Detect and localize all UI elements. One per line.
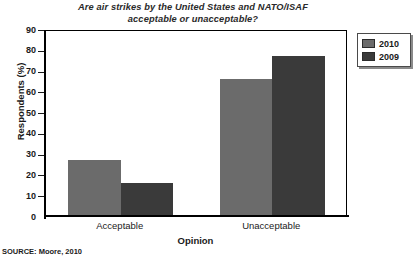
legend-swatch-2010 bbox=[362, 39, 375, 48]
bar-2009-unacceptable bbox=[272, 56, 324, 216]
bar-2010-unacceptable bbox=[220, 79, 272, 216]
chart-title-line-1: Are air strikes by the United States and… bbox=[28, 2, 358, 14]
y-tick-label: 10 bbox=[10, 192, 36, 201]
bar-2010-acceptable bbox=[68, 160, 120, 216]
y-tick-label: 20 bbox=[10, 171, 36, 180]
legend-swatch-2009 bbox=[362, 52, 375, 61]
source-note: SOURCE: Moore, 2010 bbox=[2, 247, 82, 256]
chart-title-line-2: acceptable or unacceptable? bbox=[28, 14, 358, 26]
bar-2009-acceptable bbox=[121, 183, 173, 216]
chart-legend: 2010 2009 bbox=[357, 33, 411, 67]
legend-item-2010[interactable]: 2010 bbox=[362, 37, 407, 50]
legend-label-2010: 2010 bbox=[379, 39, 399, 49]
y-tick-label: 0 bbox=[10, 213, 36, 222]
legend-label-2009: 2009 bbox=[379, 52, 399, 62]
y-tick-label: 40 bbox=[10, 129, 36, 138]
legend-item-2009[interactable]: 2009 bbox=[362, 50, 407, 63]
bars-container bbox=[45, 31, 346, 216]
y-tick-label: 60 bbox=[10, 88, 36, 97]
x-tick-label-acceptable: Acceptable bbox=[44, 220, 196, 231]
y-tick-label: 90 bbox=[10, 26, 36, 35]
plot-area bbox=[44, 30, 347, 217]
x-tick-label-unacceptable: Unacceptable bbox=[196, 220, 348, 231]
chart-figure: Are air strikes by the United States and… bbox=[0, 0, 416, 258]
y-tick-label: 50 bbox=[10, 109, 36, 118]
chart-title: Are air strikes by the United States and… bbox=[28, 2, 358, 25]
x-axis-label: Opinion bbox=[44, 235, 347, 246]
y-tick-label: 30 bbox=[10, 150, 36, 159]
y-tick-label: 70 bbox=[10, 67, 36, 76]
y-tick-label: 80 bbox=[10, 46, 36, 55]
